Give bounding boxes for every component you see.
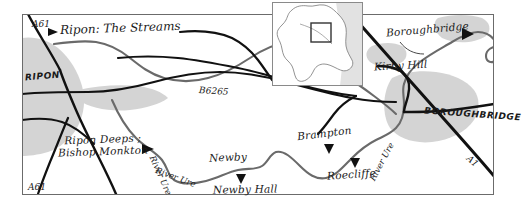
location-inset (272, 2, 363, 86)
